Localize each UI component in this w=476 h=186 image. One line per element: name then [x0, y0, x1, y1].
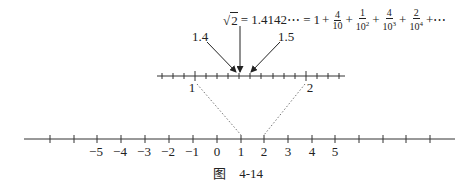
arrow-label-left: 1.4	[192, 30, 208, 43]
tick-label: 0	[214, 145, 221, 158]
term-4: 2104	[409, 8, 423, 32]
formula-one: 1	[314, 12, 321, 28]
tick-label: 4	[309, 145, 316, 158]
zoom-connectors	[197, 84, 305, 135]
tick-label: −4	[113, 145, 127, 158]
decimal-value: = 1.4142⋯ =	[241, 12, 311, 28]
denominator: 104	[409, 19, 423, 32]
den-exp: 2	[366, 20, 370, 28]
tick-label: −2	[161, 145, 175, 158]
den-base: 10	[383, 21, 393, 32]
main-axis	[24, 135, 455, 143]
tick-label: −1	[185, 145, 199, 158]
formula-trail: +⋯	[426, 12, 446, 28]
tick-label: 1	[238, 145, 245, 158]
zoom-axis-label-2: 2	[307, 81, 314, 94]
sqrt2-expansion-formula: √2 = 1.4142⋯ = 1 + 410 + 1102 + 4103 + 2…	[223, 8, 446, 32]
numerator: 4	[386, 8, 393, 19]
denominator: 103	[383, 19, 397, 32]
den-base: 10	[332, 20, 342, 31]
tick-label: −5	[89, 145, 103, 158]
figure-caption: 图 4-14	[213, 163, 263, 182]
denominator: 102	[356, 19, 370, 32]
tick-label: −3	[137, 145, 151, 158]
arrow-label-right: 1.5	[278, 30, 294, 43]
numerator: 1	[359, 8, 366, 19]
plus-sign: +	[372, 12, 379, 28]
zoom-axis	[157, 71, 345, 81]
plus-sign: +	[345, 12, 352, 28]
den-exp: 4	[419, 20, 423, 28]
tick-label: 5	[332, 145, 339, 158]
term-3: 4103	[383, 8, 397, 32]
den-exp: 3	[393, 20, 397, 28]
plus-sign: +	[399, 12, 406, 28]
term-2: 1102	[356, 8, 370, 32]
tick-label: 3	[285, 145, 292, 158]
caption-prefix: 图	[213, 166, 226, 181]
zoom-axis-label-1: 1	[189, 81, 196, 94]
plus-sign: +	[322, 12, 329, 28]
sqrt-symbol: √2	[223, 12, 238, 29]
den-base: 10	[356, 21, 366, 32]
numerator: 2	[413, 8, 420, 19]
term-1: 410	[332, 10, 342, 31]
caption-number: 4-14	[239, 166, 263, 181]
den-base: 10	[409, 21, 419, 32]
tick-label: 2	[261, 145, 268, 158]
denominator: 10	[332, 21, 342, 31]
pointer-arrows	[207, 26, 280, 72]
